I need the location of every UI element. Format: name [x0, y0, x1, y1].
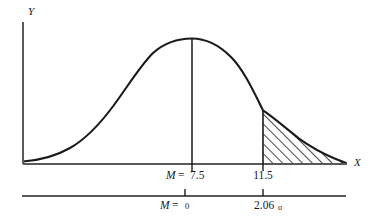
lower-mean-symbol: M	[159, 199, 171, 211]
upper-scale-label-mean: M = 7.5	[165, 169, 205, 181]
lower-scale-label-critical: 2.06 σ	[254, 199, 283, 212]
lower-mean-equals: =	[172, 199, 179, 211]
upper-mean-value: 7.5	[190, 169, 205, 181]
y-axis-label: Y	[28, 5, 36, 17]
lower-critical-value: 2.06	[254, 199, 274, 211]
upper-critical-value: 11.5	[253, 169, 273, 181]
distribution-chart-svg: Y X M = 7.5 11.5 M = 0 2.06 σ	[0, 0, 377, 222]
lower-scale-label-mean: M = 0	[159, 199, 189, 211]
distribution-figure: Y X M = 7.5 11.5 M = 0 2.06 σ	[0, 0, 377, 222]
upper-mean-symbol: M	[165, 169, 177, 181]
lower-mean-value: 0	[185, 201, 189, 211]
upper-mean-equals: =	[178, 169, 185, 181]
x-axis-label: X	[353, 156, 362, 168]
sigma-unit-label: σ	[278, 203, 283, 212]
